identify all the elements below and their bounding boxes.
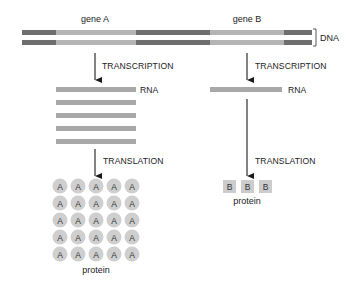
gene-b-rna-label: RNA [288, 85, 307, 95]
protein-a-molecule: A [107, 247, 122, 262]
svg-text:A: A [111, 250, 117, 260]
gene-b-protein-label: protein [233, 196, 261, 206]
protein-a-molecule: A [89, 196, 104, 211]
protein-a-molecule: A [71, 196, 86, 211]
dna-label: DNA [320, 33, 339, 43]
gene-b-transcription-label: TRANSCRIPTION [255, 61, 327, 71]
protein-a-molecule: A [53, 196, 68, 211]
protein-a-molecule: A [89, 247, 104, 262]
dna-strand-bottom [22, 40, 312, 45]
gene-a-translation-label: TRANSLATION [103, 156, 164, 166]
gene-b-translation-label: TRANSLATION [255, 156, 316, 166]
svg-text:A: A [93, 216, 99, 226]
protein-a-molecule: A [53, 247, 68, 262]
protein-a-molecule: A [53, 230, 68, 245]
protein-b-molecule: B [223, 180, 236, 193]
gene-b-protein-row: BBB [223, 180, 272, 193]
svg-text:A: A [111, 182, 117, 192]
protein-a-molecule: A [89, 179, 104, 194]
protein-a-molecule: A [107, 179, 122, 194]
svg-text:A: A [75, 233, 81, 243]
dna-bracket [313, 29, 316, 46]
svg-text:A: A [129, 199, 135, 209]
protein-a-molecule: A [89, 213, 104, 228]
svg-text:A: A [111, 233, 117, 243]
gene-a-protein-label: protein [82, 265, 110, 275]
protein-a-molecule: A [125, 247, 140, 262]
rna-bar [56, 87, 136, 92]
protein-a-molecule: A [107, 196, 122, 211]
svg-text:B: B [263, 182, 269, 192]
gene-a-protein-grid: AAAAAAAAAAAAAAAAAAAAAAAAA [53, 179, 140, 262]
gene-expression-diagram: gene A gene B DNA TRANSCRIPTION RNA TRAN… [0, 0, 357, 295]
gene-a-label: gene A [81, 14, 109, 24]
protein-a-molecule: A [71, 247, 86, 262]
svg-text:B: B [227, 182, 233, 192]
protein-a-molecule: A [71, 179, 86, 194]
protein-a-molecule: A [71, 213, 86, 228]
svg-text:A: A [129, 216, 135, 226]
svg-text:A: A [93, 250, 99, 260]
protein-a-molecule: A [71, 230, 86, 245]
svg-text:B: B [245, 182, 251, 192]
svg-text:A: A [129, 182, 135, 192]
gene-b-label: gene B [233, 14, 262, 24]
dna-strand-top [22, 30, 312, 35]
svg-text:A: A [111, 216, 117, 226]
protein-a-molecule: A [125, 196, 140, 211]
svg-text:A: A [93, 199, 99, 209]
protein-a-molecule: A [125, 230, 140, 245]
protein-a-molecule: A [125, 179, 140, 194]
rna-bar [56, 113, 136, 118]
protein-a-molecule: A [53, 213, 68, 228]
gene-a-rna-copies [56, 87, 136, 144]
gene-b-rna-bar [210, 87, 282, 92]
protein-a-molecule: A [107, 230, 122, 245]
svg-text:A: A [57, 233, 63, 243]
gene-a-transcription-label: TRANSCRIPTION [102, 61, 174, 71]
protein-a-molecule: A [53, 179, 68, 194]
gene-a-rna-label: RNA [140, 85, 159, 95]
svg-text:A: A [75, 182, 81, 192]
svg-text:A: A [75, 250, 81, 260]
protein-b-molecule: B [259, 180, 272, 193]
protein-b-molecule: B [241, 180, 254, 193]
svg-text:A: A [57, 182, 63, 192]
rna-bar [56, 100, 136, 105]
svg-text:A: A [93, 182, 99, 192]
rna-bar [56, 139, 136, 144]
svg-text:A: A [75, 216, 81, 226]
protein-a-molecule: A [107, 213, 122, 228]
rna-bar [56, 126, 136, 131]
svg-text:A: A [57, 250, 63, 260]
svg-text:A: A [111, 199, 117, 209]
protein-a-molecule: A [125, 213, 140, 228]
svg-text:A: A [93, 233, 99, 243]
svg-text:A: A [129, 233, 135, 243]
protein-a-molecule: A [89, 230, 104, 245]
svg-text:A: A [75, 199, 81, 209]
svg-text:A: A [129, 250, 135, 260]
svg-text:A: A [57, 199, 63, 209]
svg-text:A: A [57, 216, 63, 226]
